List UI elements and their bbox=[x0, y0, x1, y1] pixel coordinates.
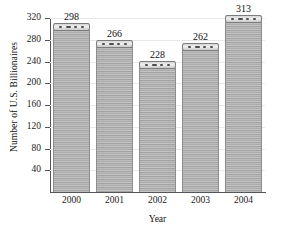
bar-cap-dash bbox=[81, 26, 84, 28]
bar-cap-dash bbox=[195, 46, 200, 48]
bar-cap-dash bbox=[160, 64, 163, 66]
y-tick-label: 240 bbox=[1, 56, 41, 66]
bar-slot: 298 bbox=[53, 18, 90, 192]
bar-slot: 262 bbox=[182, 18, 219, 192]
y-tick-label: 80 bbox=[1, 143, 41, 153]
bar-cap-dash bbox=[145, 64, 148, 66]
bar-cap-dash bbox=[253, 18, 256, 20]
bar-value-label: 298 bbox=[50, 11, 94, 22]
bar-value-label: 313 bbox=[222, 3, 266, 14]
bar-cap-dash bbox=[109, 43, 114, 45]
x-axis-title: Year bbox=[50, 214, 265, 224]
bar-slot: 228 bbox=[139, 18, 176, 192]
bar-cap-dash bbox=[117, 43, 120, 45]
x-axis-line bbox=[50, 192, 266, 193]
bar-cap-dash bbox=[74, 26, 77, 28]
bar[interactable] bbox=[182, 50, 219, 192]
bar-value-label: 262 bbox=[179, 31, 223, 42]
bar-cap-dash bbox=[210, 46, 213, 48]
bar-cap-dash bbox=[246, 18, 249, 20]
bar[interactable] bbox=[53, 30, 90, 192]
bar-cap bbox=[96, 40, 133, 48]
bar-cap-dash bbox=[102, 43, 105, 45]
x-tick-label: 2004 bbox=[225, 195, 262, 211]
bar-value-label: 266 bbox=[93, 28, 137, 39]
bar-cap bbox=[182, 43, 219, 51]
bar-cap bbox=[225, 15, 262, 23]
bar[interactable] bbox=[96, 47, 133, 192]
y-tick-label: 160 bbox=[1, 99, 41, 109]
plot-area: 4080120160200240280320 298266228262313 bbox=[50, 18, 265, 192]
y-tick-label: 320 bbox=[1, 12, 41, 22]
y-tick-label: 280 bbox=[1, 34, 41, 44]
x-tick-label: 2002 bbox=[139, 195, 176, 211]
bar-cap-dash bbox=[66, 26, 71, 28]
bar-cap-dash bbox=[203, 46, 206, 48]
x-tick-labels: 20002001200220032004 bbox=[50, 195, 265, 211]
bar-value-label: 228 bbox=[136, 49, 180, 60]
y-tick-label: 120 bbox=[1, 121, 41, 131]
bar-cap bbox=[53, 23, 90, 31]
bar-cap-dash bbox=[167, 64, 170, 66]
bar-slot: 313 bbox=[225, 18, 262, 192]
bar-cap-dash bbox=[231, 18, 234, 20]
x-tick-label: 2003 bbox=[182, 195, 219, 211]
bar-cap-dash bbox=[238, 18, 243, 20]
bar-cap bbox=[139, 61, 176, 69]
bar[interactable] bbox=[139, 68, 176, 192]
bar-chart-figure: Number of U.S. Billionaires 408012016020… bbox=[0, 0, 283, 233]
bar[interactable] bbox=[225, 22, 262, 192]
x-tick-label: 2001 bbox=[96, 195, 133, 211]
bar-cap-dash bbox=[188, 46, 191, 48]
y-tick-label: 200 bbox=[1, 77, 41, 87]
bar-cap-dash bbox=[59, 26, 62, 28]
x-tick-label: 2000 bbox=[53, 195, 90, 211]
bar-slot: 266 bbox=[96, 18, 133, 192]
bar-series: 298266228262313 bbox=[50, 18, 265, 192]
y-tick-label: 40 bbox=[1, 164, 41, 174]
bar-cap-dash bbox=[124, 43, 127, 45]
bar-cap-dash bbox=[152, 64, 157, 66]
